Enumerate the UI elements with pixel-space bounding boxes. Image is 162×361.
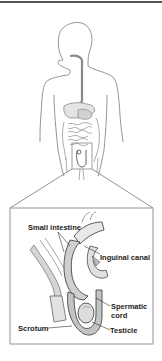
label-testicle: Testicle: [110, 327, 137, 335]
zoom-region-box: [72, 143, 92, 169]
projection-lines: [10, 169, 153, 208]
esophagus: [70, 56, 82, 108]
testicle-shape: [78, 303, 94, 323]
label-spermatic-line2: cord: [111, 312, 127, 320]
label-scrotum: Scrotum: [18, 325, 48, 333]
label-spermatic-line1: Spermatic: [111, 303, 147, 311]
intestines: [63, 118, 100, 162]
label-small-intestine: Small intestine: [28, 224, 81, 232]
label-inguinal-canal: Inguinal canal: [100, 254, 150, 262]
